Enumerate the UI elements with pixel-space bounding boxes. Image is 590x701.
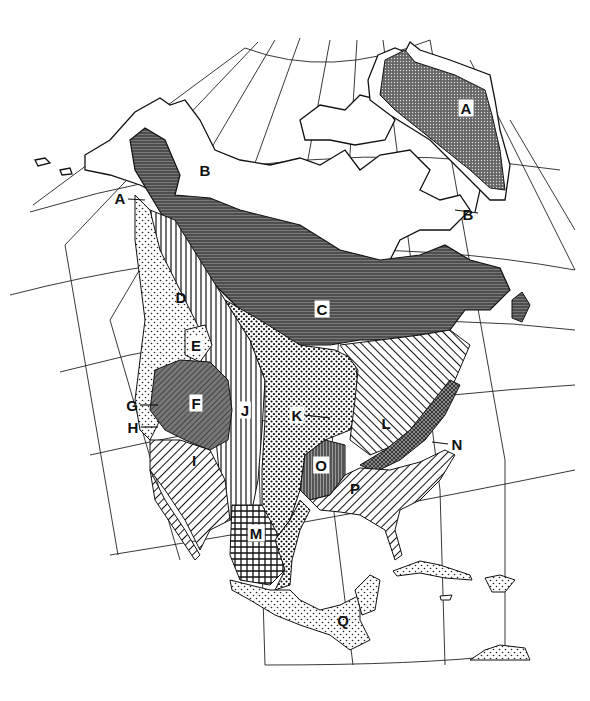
vegetation-map: AABBCDEFGHIJKLMNOPQ — [0, 0, 590, 701]
leader-lines — [0, 0, 590, 701]
